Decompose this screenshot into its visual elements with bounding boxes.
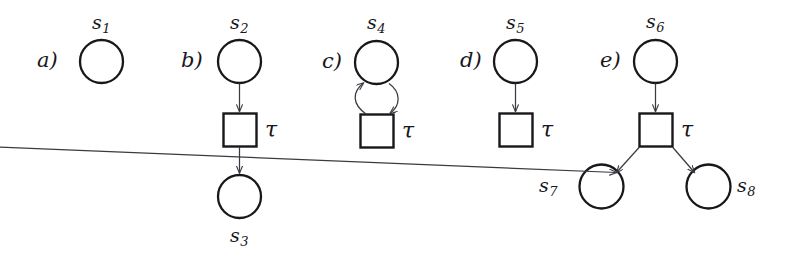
transition-tau-b bbox=[224, 114, 257, 147]
arc-tau-to-s7 bbox=[0, 147, 617, 173]
place-s6 bbox=[634, 40, 677, 83]
panel-label-b: b) bbox=[181, 50, 203, 71]
place-label-s2: s2 bbox=[230, 13, 249, 35]
place-label-s5: s5 bbox=[506, 13, 525, 35]
transition-tau-e bbox=[640, 114, 673, 147]
transition-tau-d bbox=[500, 114, 533, 147]
place-label-s8: s8 bbox=[737, 176, 756, 198]
place-label-s7: s7 bbox=[539, 176, 558, 198]
panel-label-a: a) bbox=[37, 50, 58, 71]
transition-label-tau-b: τ bbox=[265, 119, 277, 141]
transition-tau-c bbox=[361, 115, 394, 148]
panel-label-d: d) bbox=[460, 50, 482, 71]
place-label-s4: s4 bbox=[367, 13, 386, 35]
petri-net-figure: a) b) c) d) e) s1 s2 s3 s4 s5 s6 s7 s8 τ… bbox=[0, 0, 788, 259]
arc-tau-to-s7b bbox=[617, 147, 640, 173]
place-label-s6: s6 bbox=[646, 12, 665, 34]
place-label-s3: s3 bbox=[230, 226, 249, 248]
place-s1 bbox=[80, 40, 123, 83]
arc-s4-to-tau-loop bbox=[389, 84, 398, 114]
transition-label-tau-d: τ bbox=[541, 119, 553, 141]
arc-tau-to-s8 bbox=[673, 147, 695, 173]
place-label-s1: s1 bbox=[92, 13, 111, 35]
panel-label-e: e) bbox=[600, 50, 621, 71]
transition-label-tau-c: τ bbox=[402, 120, 414, 142]
place-s4 bbox=[355, 41, 398, 84]
place-s5 bbox=[494, 40, 537, 83]
petri-net-canvas bbox=[0, 0, 788, 259]
panel-label-c: c) bbox=[322, 51, 342, 72]
place-s2 bbox=[218, 40, 261, 83]
place-s3 bbox=[218, 175, 261, 218]
arc-tau-to-s4-loop bbox=[355, 83, 366, 114]
transition-label-tau-e: τ bbox=[681, 119, 693, 141]
